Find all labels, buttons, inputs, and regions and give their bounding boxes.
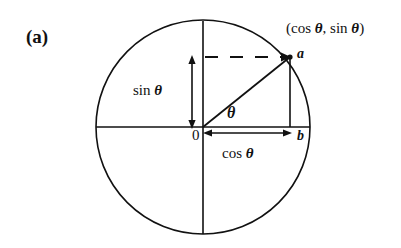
sine-segment-label: sin θ	[133, 83, 162, 98]
figure-panel-a: (a) (cos θ, sin θ) a b 0 sin θ cos θ θ	[0, 0, 401, 248]
radius-line	[203, 57, 290, 127]
unit-circle-diagram	[0, 0, 401, 248]
cos-arrowhead-left	[203, 129, 212, 136]
point-a-marker	[287, 54, 292, 59]
sin-arrowhead-up	[188, 55, 195, 64]
angle-theta-label: θ	[227, 105, 235, 121]
cosine-segment-label: cos θ	[222, 146, 254, 161]
panel-label: (a)	[26, 27, 48, 46]
point-a-label: a	[297, 47, 304, 61]
coordinate-label: (cos θ, sin θ)	[286, 21, 364, 36]
cos-arrowhead-right	[283, 129, 292, 136]
point-b-label: b	[297, 129, 304, 143]
origin-label: 0	[192, 128, 200, 143]
